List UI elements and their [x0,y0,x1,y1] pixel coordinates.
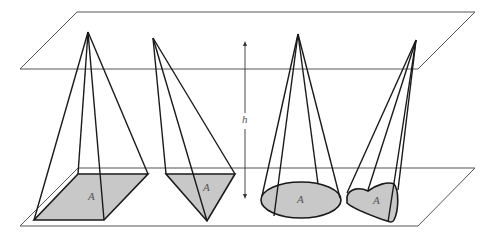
height-label: h [242,113,248,125]
base-label-A: A [372,194,380,206]
base-label-A: A [202,181,210,193]
base-label-A: A [296,193,304,205]
base-label-A: A [87,190,95,202]
square-pyramid: A [34,32,148,220]
oblique-cone: A [347,40,416,222]
solids-figure: A A h A A [0,0,490,239]
triangular-pyramid: A [153,38,235,221]
height-arrow: h [242,41,248,199]
cone: A [261,34,341,218]
diagram-canvas: A A h A A [0,0,490,239]
